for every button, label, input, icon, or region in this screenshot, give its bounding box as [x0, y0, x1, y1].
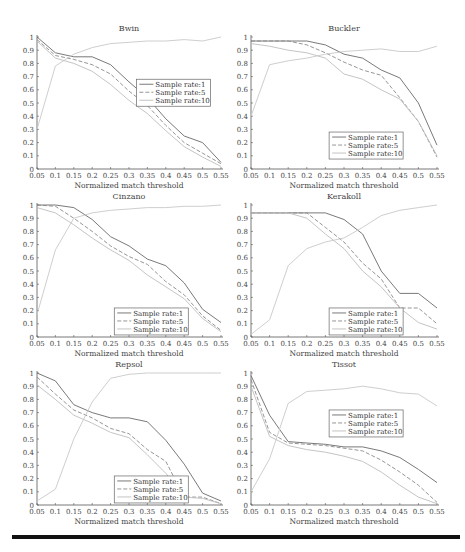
series-line	[37, 205, 221, 315]
y-tick-label: 0.8	[23, 396, 34, 404]
legend-label: Sample rate:1	[348, 134, 398, 142]
y-tick-label: 0.3	[237, 462, 248, 470]
x-tick-label: 0.4	[160, 508, 172, 516]
y-tick-label: 0.8	[23, 228, 34, 236]
x-tick-label: 0.2	[87, 340, 98, 348]
x-tick-label: 0.55	[213, 172, 229, 180]
y-tick-label: 0.1	[237, 488, 248, 496]
x-tick-label: 0.5	[197, 340, 208, 348]
chart-repsol: Repsol00.10.20.30.40.50.60.70.80.910.050…	[23, 360, 229, 526]
bottom-rule-divider	[12, 535, 460, 539]
y-tick-label: 0.9	[237, 383, 248, 391]
series-line	[251, 386, 437, 504]
legend-label: Sample rate:1	[133, 310, 183, 318]
legend-label: Sample rate:5	[348, 142, 398, 150]
chart-title: Cinzano	[113, 192, 146, 201]
x-tick-label: 0.35	[355, 172, 371, 180]
x-tick-label: 0.45	[176, 340, 192, 348]
y-tick-label: 0.7	[237, 73, 248, 81]
x-tick-label: 0.5	[413, 172, 424, 180]
chart-title: Repsol	[115, 360, 143, 369]
y-tick-label: 0.1	[237, 320, 248, 328]
x-tick-label: 0.4	[376, 340, 388, 348]
chart-tissot: Tissot00.10.20.30.40.50.60.70.80.910.050…	[237, 360, 445, 526]
y-tick-label: 1	[244, 202, 248, 210]
chart-kerakoll: Kerakoll00.10.20.30.40.50.60.70.80.910.0…	[237, 192, 445, 358]
x-tick-label: 0.45	[392, 172, 408, 180]
legend-label: Sample rate:10	[155, 97, 209, 105]
x-tick-label: 0.25	[318, 172, 334, 180]
y-tick-label: 0.4	[23, 449, 35, 457]
x-tick-label: 0.35	[140, 172, 156, 180]
y-tick-label: 0.3	[237, 126, 248, 134]
chart-title: Buckler	[328, 24, 360, 33]
x-tick-label: 0.55	[429, 508, 445, 516]
y-tick-label: 1	[30, 370, 34, 378]
x-tick-label: 0.45	[392, 340, 408, 348]
legend: Sample rate:1Sample rate:5Sample rate:10	[329, 132, 403, 159]
legend: Sample rate:1Sample rate:5Sample rate:10	[114, 476, 188, 503]
legend-label: Sample rate:1	[155, 81, 205, 89]
x-tick-label: 0.3	[123, 508, 134, 516]
legend-label: Sample rate:1	[348, 412, 398, 420]
legend-label: Sample rate:1	[348, 310, 398, 318]
y-tick-label: 0.9	[237, 215, 248, 223]
x-tick-label: 0.15	[66, 172, 82, 180]
x-tick-label: 0.45	[176, 172, 192, 180]
legend-label: Sample rate:5	[133, 486, 183, 494]
y-tick-label: 0.2	[237, 139, 248, 147]
x-tick-label: 0.35	[140, 340, 156, 348]
y-tick-label: 1	[244, 34, 248, 42]
x-tick-label: 0.3	[338, 508, 349, 516]
legend: Sample rate:1Sample rate:5Sample rate:10	[136, 79, 210, 106]
x-tick-label: 0.3	[338, 340, 349, 348]
x-tick-label: 0.1	[264, 340, 275, 348]
x-axis-label: Normalized match threshold	[290, 517, 399, 526]
x-tick-label: 0.25	[103, 340, 119, 348]
x-tick-label: 0.05	[243, 508, 259, 516]
x-axis-label: Normalized match threshold	[75, 517, 184, 526]
legend-label: Sample rate:5	[133, 318, 183, 326]
x-tick-label: 0.25	[318, 340, 334, 348]
y-tick-label: 0.4	[23, 113, 35, 121]
y-tick-label: 0.7	[237, 409, 248, 417]
x-tick-label: 0.15	[66, 508, 82, 516]
x-tick-label: 0.4	[160, 172, 172, 180]
x-tick-label: 0.15	[280, 172, 296, 180]
y-tick-label: 0.5	[237, 100, 248, 108]
x-tick-label: 0.1	[50, 508, 61, 516]
legend-label: Sample rate:10	[348, 326, 402, 334]
y-tick-label: 0.8	[237, 228, 248, 236]
y-tick-label: 0.3	[237, 294, 248, 302]
legend-label: Sample rate:10	[133, 494, 187, 502]
x-tick-label: 0.15	[66, 340, 82, 348]
y-tick-label: 0.3	[23, 126, 34, 134]
y-tick-label: 0.2	[23, 475, 34, 483]
y-tick-label: 0.5	[237, 436, 248, 444]
x-tick-label: 0.05	[29, 508, 45, 516]
y-tick-label: 0.6	[23, 254, 35, 262]
y-tick-label: 1	[30, 202, 34, 210]
x-tick-label: 0.3	[338, 172, 349, 180]
y-tick-label: 0.2	[237, 307, 248, 315]
y-tick-label: 0.4	[237, 449, 249, 457]
x-tick-label: 0.55	[429, 340, 445, 348]
y-tick-label: 1	[30, 34, 34, 42]
legend-label: Sample rate:10	[133, 326, 187, 334]
chart-buckler: Buckler00.10.20.30.40.50.60.70.80.910.05…	[237, 24, 445, 190]
legend-label: Sample rate:10	[348, 428, 402, 436]
x-tick-label: 0.05	[29, 172, 45, 180]
legend: Sample rate:1Sample rate:5Sample rate:10	[114, 308, 188, 335]
y-tick-label: 0.4	[237, 113, 249, 121]
x-tick-label: 0.05	[243, 340, 259, 348]
y-tick-label: 0.2	[23, 139, 34, 147]
y-tick-label: 0.7	[23, 409, 34, 417]
x-tick-label: 0.35	[140, 508, 156, 516]
y-tick-label: 0.1	[237, 152, 248, 160]
legend: Sample rate:1Sample rate:5Sample rate:10	[329, 308, 403, 335]
series-line	[251, 213, 437, 324]
x-axis-label: Normalized match threshold	[290, 181, 399, 190]
y-tick-label: 0.9	[23, 215, 34, 223]
legend-label: Sample rate:5	[155, 89, 205, 97]
x-tick-label: 0.3	[123, 340, 134, 348]
